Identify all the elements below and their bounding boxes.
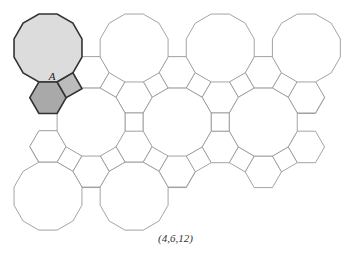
tiling-caption: (4,6,12) xyxy=(0,232,351,244)
square-tile xyxy=(125,113,143,131)
dodecagon-tile xyxy=(272,14,340,82)
dodecagon-tile xyxy=(186,14,254,82)
dodecagon-tile xyxy=(143,88,211,156)
dodecagon-tile xyxy=(57,88,125,156)
dodecagon-tile xyxy=(229,88,297,156)
dodecagon-tile xyxy=(100,14,168,82)
tiling-diagram: A xyxy=(0,0,351,257)
square-tile xyxy=(211,113,229,131)
vertex-label-a: A xyxy=(48,70,56,82)
dodecagon-tile xyxy=(100,162,168,230)
dodecagon-tile xyxy=(14,162,82,230)
